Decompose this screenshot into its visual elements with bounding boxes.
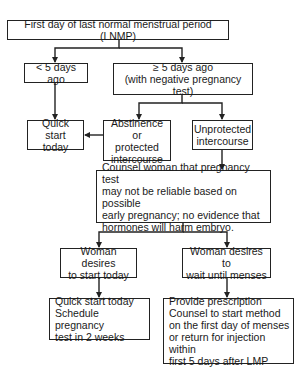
node-quick-start-schedule-label: Quick start today Schedule pregnancy tes…	[55, 295, 146, 343]
node-counsel: Counsel woman that pregnancy test may no…	[96, 170, 271, 223]
node-ge-5-days: ≥ 5 days ago (with negative pregnancy te…	[113, 63, 253, 95]
node-abstinence-label: Abstinence or protected intercourse	[107, 117, 167, 165]
node-abstinence: Abstinence or protected intercourse	[103, 120, 171, 161]
node-counsel-label: Counsel woman that pregnancy test may no…	[102, 161, 267, 233]
node-unprotected-label: Unprotected intercourse	[194, 123, 251, 147]
node-desire-wait-label: Woman desires to wait until menses	[186, 245, 267, 281]
node-ge-5-days-label: ≥ 5 days ago (with negative pregnancy te…	[117, 61, 249, 97]
node-prescription: Provide prescription Counsel to start me…	[163, 298, 294, 364]
node-prescription-label: Provide prescription Counsel to start me…	[169, 295, 290, 367]
node-unprotected: Unprotected intercourse	[192, 120, 253, 150]
edge-ge5-unprotected	[182, 103, 222, 119]
node-quick-start-schedule: Quick start today Schedule pregnancy tes…	[49, 298, 150, 340]
node-desire-wait: Woman desires to wait until menses	[182, 248, 271, 278]
node-desire-today: Woman desires to start today	[60, 248, 137, 278]
edge-lnmp-ge5	[119, 48, 182, 62]
node-less-5-days-label: < 5 days ago	[28, 61, 84, 85]
edge-ge5-abstinence	[139, 95, 182, 119]
node-less-5-days: < 5 days ago	[24, 63, 88, 83]
edge-lnmp-less5	[55, 39, 119, 62]
node-quick-start-label: Quick start today	[31, 117, 80, 153]
node-desire-today-label: Woman desires to start today	[64, 245, 133, 281]
node-quick-start: Quick start today	[27, 120, 84, 150]
node-lnmp-label: First day of last normal menstrual perio…	[11, 18, 225, 42]
node-lnmp: First day of last normal menstrual perio…	[7, 20, 229, 40]
